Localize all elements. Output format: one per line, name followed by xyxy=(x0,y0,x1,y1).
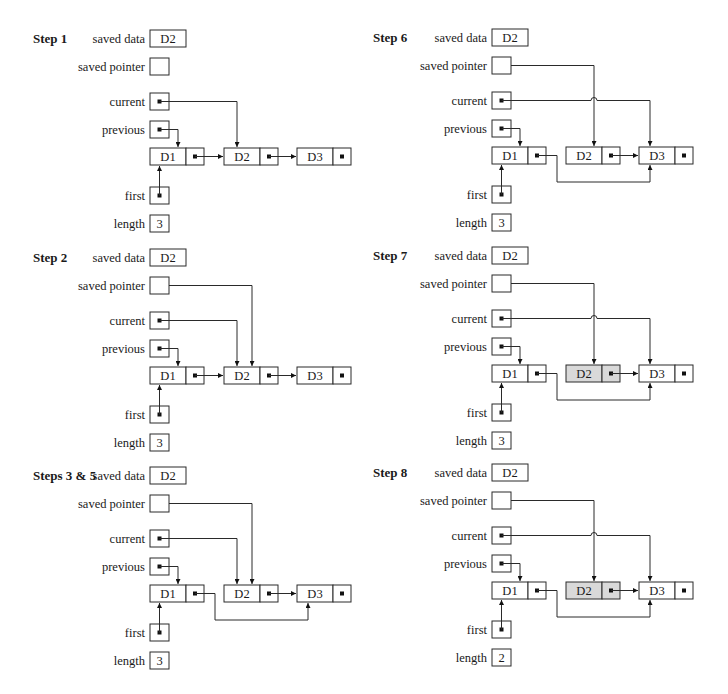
saved-pointer-arrow xyxy=(511,66,594,147)
step-panel-step1: Step 1saved datasaved pointercurrentprev… xyxy=(33,30,351,232)
label-saved-pointer: saved pointer xyxy=(420,277,488,291)
step-panel-step8: Step 8saved datasaved pointercurrentprev… xyxy=(373,464,693,666)
label-length: length xyxy=(456,216,488,230)
label-previous: previous xyxy=(102,342,145,356)
label-first: first xyxy=(125,408,146,422)
label-saved-pointer: saved pointer xyxy=(78,497,146,511)
label-saved-data: saved data xyxy=(93,469,146,483)
node-data-value: D2 xyxy=(234,150,249,164)
step-panel-step7: Step 7saved datasaved pointercurrentprev… xyxy=(373,247,693,449)
node-data-value: D1 xyxy=(502,584,517,598)
node-data-value: D2 xyxy=(576,149,591,163)
saved-data-value: D2 xyxy=(502,31,517,45)
step-title: Step 6 xyxy=(373,30,408,45)
saved-pointer-arrow xyxy=(511,284,594,365)
node-data-value: D1 xyxy=(502,367,517,381)
linked-list-deletion-diagram: Step 1saved datasaved pointercurrentprev… xyxy=(0,0,728,694)
current-pointer-arrow xyxy=(502,533,651,582)
step-title: Steps 3 & 5 xyxy=(33,468,97,483)
saved-data-value: D2 xyxy=(160,251,175,265)
current-pointer-arrow xyxy=(160,539,238,585)
step-title: Step 8 xyxy=(373,465,408,480)
node-next-dot xyxy=(682,589,686,593)
label-first: first xyxy=(125,189,146,203)
label-length: length xyxy=(114,217,146,231)
label-previous: previous xyxy=(102,123,145,137)
node-next-dot xyxy=(340,592,344,596)
length-value: 3 xyxy=(156,217,162,231)
current-pointer-arrow xyxy=(160,321,238,367)
saved-pointer-arrow xyxy=(511,501,594,582)
node-data-value: D2 xyxy=(576,367,591,381)
saved-pointer-box xyxy=(150,58,169,75)
node-data-value: D2 xyxy=(576,584,591,598)
node-next-dot xyxy=(682,154,686,158)
node-data-value: D3 xyxy=(307,369,322,383)
label-saved-pointer: saved pointer xyxy=(78,60,146,74)
node-data-value: D1 xyxy=(160,369,175,383)
label-saved-pointer: saved pointer xyxy=(420,494,488,508)
step-panel-step3-5: Steps 3 & 5saved datasaved pointercurren… xyxy=(33,467,351,669)
saved-data-value: D2 xyxy=(502,466,517,480)
label-current: current xyxy=(452,94,488,108)
label-saved-data: saved data xyxy=(435,249,488,263)
label-previous: previous xyxy=(102,560,145,574)
saved-data-value: D2 xyxy=(502,249,517,263)
list-node-d3: D3 xyxy=(297,148,351,165)
step-title: Step 1 xyxy=(33,31,67,46)
label-first: first xyxy=(467,188,488,202)
node-data-value: D1 xyxy=(502,149,517,163)
label-saved-data: saved data xyxy=(93,32,146,46)
length-value: 3 xyxy=(156,436,162,450)
label-first: first xyxy=(467,623,488,637)
label-current: current xyxy=(452,529,488,543)
step-panel-step2: Step 2saved datasaved pointercurrentprev… xyxy=(33,249,351,451)
node-data-value: D1 xyxy=(160,150,175,164)
step-panel-step6: Step 6saved datasaved pointercurrentprev… xyxy=(373,29,693,231)
label-first: first xyxy=(125,626,146,640)
label-saved-data: saved data xyxy=(435,466,488,480)
label-saved-pointer: saved pointer xyxy=(420,59,488,73)
label-saved-data: saved data xyxy=(93,251,146,265)
step-title: Step 2 xyxy=(33,250,67,265)
label-first: first xyxy=(467,406,488,420)
length-value: 3 xyxy=(498,216,504,230)
length-value: 3 xyxy=(156,654,162,668)
label-saved-data: saved data xyxy=(435,31,488,45)
label-length: length xyxy=(114,436,146,450)
length-value: 2 xyxy=(498,651,504,665)
list-node-d3: D3 xyxy=(639,365,693,382)
saved-pointer-box xyxy=(150,277,169,294)
node-data-value: D2 xyxy=(234,369,249,383)
label-current: current xyxy=(452,312,488,326)
label-current: current xyxy=(110,95,146,109)
list-node-d3: D3 xyxy=(297,585,351,602)
list-node-d3: D3 xyxy=(297,367,351,384)
saved-pointer-arrow xyxy=(169,504,252,585)
length-value: 3 xyxy=(498,434,504,448)
saved-data-value: D2 xyxy=(160,469,175,483)
node-data-value: D3 xyxy=(649,584,664,598)
label-current: current xyxy=(110,532,146,546)
saved-data-value: D2 xyxy=(160,32,175,46)
saved-pointer-box xyxy=(492,492,511,509)
node-next-dot xyxy=(682,372,686,376)
label-previous: previous xyxy=(444,557,487,571)
node-data-value: D1 xyxy=(160,587,175,601)
label-length: length xyxy=(456,651,488,665)
step-title: Step 7 xyxy=(373,248,408,263)
label-saved-pointer: saved pointer xyxy=(78,279,146,293)
label-previous: previous xyxy=(444,122,487,136)
list-node-d3: D3 xyxy=(639,582,693,599)
label-length: length xyxy=(456,434,488,448)
saved-pointer-box xyxy=(150,495,169,512)
current-pointer-arrow xyxy=(160,102,238,148)
current-pointer-arrow xyxy=(502,98,651,147)
node-next-dot xyxy=(340,374,344,378)
node-next-dot xyxy=(340,155,344,159)
node-data-value: D3 xyxy=(649,367,664,381)
saved-pointer-box xyxy=(492,275,511,292)
current-pointer-arrow xyxy=(502,316,651,365)
label-previous: previous xyxy=(444,340,487,354)
node-data-value: D3 xyxy=(307,587,322,601)
